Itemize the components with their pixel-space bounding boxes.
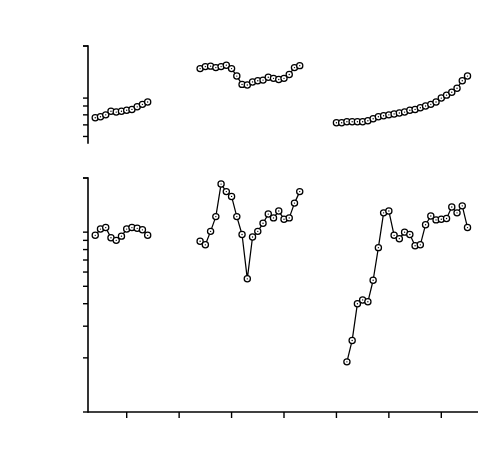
data-point-center bbox=[393, 235, 394, 236]
data-point-center bbox=[257, 231, 258, 232]
data-point-center bbox=[430, 104, 431, 105]
data-point-center bbox=[231, 196, 232, 197]
data-point-center bbox=[236, 75, 237, 76]
data-point-center bbox=[404, 231, 405, 232]
data-point-center bbox=[110, 110, 111, 111]
data-point-center bbox=[420, 107, 421, 108]
data-point-center bbox=[441, 97, 442, 98]
data-point-center bbox=[220, 183, 221, 184]
data-point-center bbox=[294, 67, 295, 68]
data-point-center bbox=[462, 205, 463, 206]
data-point-center bbox=[425, 105, 426, 106]
data-point-center bbox=[441, 219, 442, 220]
data-point-center bbox=[116, 111, 117, 112]
data-point-center bbox=[142, 104, 143, 105]
data-point-center bbox=[126, 228, 127, 229]
data-point-center bbox=[95, 235, 96, 236]
series-p4 bbox=[92, 224, 151, 243]
data-point-center bbox=[252, 236, 253, 237]
data-point-center bbox=[289, 74, 290, 75]
data-point-center bbox=[273, 217, 274, 218]
data-point-center bbox=[425, 224, 426, 225]
data-point-center bbox=[210, 231, 211, 232]
data-point-center bbox=[268, 213, 269, 214]
data-point-center bbox=[299, 65, 300, 66]
data-point-center bbox=[205, 244, 206, 245]
data-point-center bbox=[393, 113, 394, 114]
data-point-center bbox=[351, 340, 352, 341]
data-point-center bbox=[252, 81, 253, 82]
data-point-center bbox=[383, 115, 384, 116]
data-point-center bbox=[420, 244, 421, 245]
data-point-center bbox=[388, 114, 389, 115]
data-point-center bbox=[241, 84, 242, 85]
data-point-center bbox=[105, 227, 106, 228]
data-point-center bbox=[257, 80, 258, 81]
data-point-center bbox=[446, 218, 447, 219]
data-point-center bbox=[199, 241, 200, 242]
data-point-center bbox=[121, 110, 122, 111]
data-point-center bbox=[367, 301, 368, 302]
data-point-center bbox=[294, 202, 295, 203]
data-point-center bbox=[435, 101, 436, 102]
data-point-center bbox=[131, 109, 132, 110]
data-point-center bbox=[467, 75, 468, 76]
data-point-center bbox=[136, 228, 137, 229]
data-point-center bbox=[404, 111, 405, 112]
data-point-center bbox=[346, 121, 347, 122]
data-point-center bbox=[351, 121, 352, 122]
data-point-center bbox=[199, 68, 200, 69]
data-point-center bbox=[283, 219, 284, 220]
data-point-center bbox=[147, 101, 148, 102]
data-point-center bbox=[362, 299, 363, 300]
data-point-center bbox=[409, 110, 410, 111]
data-point-center bbox=[456, 88, 457, 89]
data-point-center bbox=[215, 216, 216, 217]
data-point-center bbox=[126, 110, 127, 111]
data-point-center bbox=[383, 212, 384, 213]
data-point-center bbox=[262, 223, 263, 224]
data-point-center bbox=[435, 219, 436, 220]
data-point-center bbox=[456, 212, 457, 213]
data-point-center bbox=[241, 234, 242, 235]
data-point-center bbox=[247, 84, 248, 85]
data-point-center bbox=[226, 64, 227, 65]
series-p2 bbox=[197, 62, 303, 88]
data-point-center bbox=[121, 235, 122, 236]
data-point-center bbox=[278, 210, 279, 211]
data-point-center bbox=[226, 191, 227, 192]
data-point-center bbox=[289, 217, 290, 218]
data-point-center bbox=[372, 280, 373, 281]
data-point-center bbox=[278, 79, 279, 80]
data-point-center bbox=[341, 122, 342, 123]
data-point-center bbox=[231, 68, 232, 69]
data-point-center bbox=[131, 227, 132, 228]
data-point-center bbox=[399, 238, 400, 239]
data-point-center bbox=[142, 229, 143, 230]
series-line bbox=[336, 76, 467, 123]
data-point-center bbox=[100, 228, 101, 229]
data-point-center bbox=[210, 65, 211, 66]
data-point-center bbox=[95, 117, 96, 118]
data-point-center bbox=[409, 234, 410, 235]
data-point-center bbox=[414, 109, 415, 110]
data-point-center bbox=[378, 116, 379, 117]
series-p3 bbox=[333, 73, 470, 126]
data-point-center bbox=[215, 67, 216, 68]
data-point-center bbox=[116, 240, 117, 241]
series-p1 bbox=[92, 99, 151, 121]
data-point-center bbox=[110, 237, 111, 238]
data-point-center bbox=[446, 94, 447, 95]
series-line bbox=[347, 206, 468, 362]
data-point-center bbox=[100, 116, 101, 117]
data-point-center bbox=[357, 121, 358, 122]
data-point-center bbox=[273, 78, 274, 79]
data-point-center bbox=[451, 206, 452, 207]
data-point-center bbox=[462, 80, 463, 81]
data-point-center bbox=[105, 114, 106, 115]
multi-panel-index-chart bbox=[0, 0, 484, 467]
data-point-center bbox=[414, 245, 415, 246]
data-point-center bbox=[220, 66, 221, 67]
series-line bbox=[200, 184, 300, 279]
data-point-center bbox=[367, 120, 368, 121]
